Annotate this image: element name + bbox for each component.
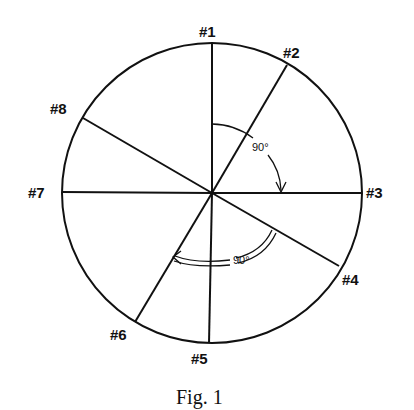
angle-label-lower: 90° xyxy=(233,254,250,266)
radius-5 xyxy=(209,193,212,343)
radius-4 xyxy=(212,193,339,266)
label-6: #6 xyxy=(110,326,127,343)
angle-arc-upper: 90° xyxy=(212,124,286,192)
figure-caption: Fig. 1 xyxy=(176,386,223,409)
radius-2 xyxy=(212,65,287,193)
arc-lower-inner-a xyxy=(175,256,230,261)
angle-label-upper: 90° xyxy=(252,141,269,153)
label-3: #3 xyxy=(366,184,383,201)
angle-arc-lower: 90° xyxy=(173,230,276,266)
label-1: #1 xyxy=(199,23,216,40)
label-2: #2 xyxy=(283,44,300,61)
radius-7 xyxy=(62,192,212,193)
label-5: #5 xyxy=(191,350,208,367)
circle-diagram: 90° 90° #1 #2 #3 #4 #5 #6 #7 #8 Fig. 1 xyxy=(0,0,414,410)
label-7: #7 xyxy=(28,184,45,201)
label-8: #8 xyxy=(50,100,67,117)
arc-upper-segment-b xyxy=(268,155,281,190)
radius-8 xyxy=(83,118,212,193)
arc-upper-segment-a xyxy=(212,124,253,138)
radial-lines xyxy=(62,43,361,343)
label-4: #4 xyxy=(342,271,359,288)
